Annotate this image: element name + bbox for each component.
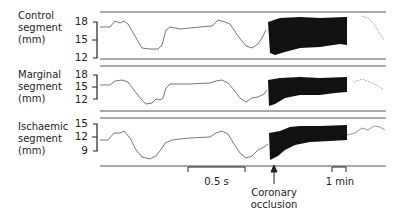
scale-bars: [188, 167, 346, 172]
control-label-line3: (mm): [18, 34, 62, 46]
marginal-label-line1: Marginal: [18, 69, 62, 81]
ischaemic-after: [347, 126, 385, 135]
marginal-ytick-mid: 15: [66, 81, 88, 92]
control-label-line1: Control: [18, 10, 62, 22]
ischaemic-band: [269, 125, 347, 160]
ischaemic-label-line3: (mm): [18, 145, 68, 157]
marginal-ytick-top: 18: [66, 69, 88, 80]
marginal-label-line2: segment: [18, 81, 62, 93]
control-label: Control segment (mm): [18, 10, 62, 46]
ischaemic-ytick-top: 15: [66, 118, 88, 129]
ischaemic-label: Ischaemic segment (mm): [18, 121, 68, 157]
occlusion-annotation: Coronary occlusion: [244, 187, 304, 211]
occlusion-line2: occlusion: [244, 199, 304, 211]
marginal-band: [268, 77, 347, 106]
occlusion-arrow: [271, 165, 277, 184]
marginal-ytick-bottom: 12: [66, 94, 88, 105]
control-after: [362, 16, 384, 40]
marginal-trace: [100, 80, 267, 104]
control-ytick-top: 18: [66, 16, 88, 27]
control-ytick-mid: 15: [66, 34, 88, 45]
ischaemic-ytick-mid: 12: [66, 131, 88, 142]
time-scale-label: 0.5 s: [188, 176, 245, 188]
control-band: [268, 17, 347, 55]
control-ytick-bottom: 12: [66, 52, 88, 63]
marginal-after: [354, 79, 384, 90]
ischaemic-label-line1: Ischaemic: [18, 121, 68, 133]
marginal-label-line3: (mm): [18, 93, 62, 105]
ischaemic-trace: [100, 131, 268, 159]
y-axis-brackets: [92, 22, 97, 151]
ischaemic-ytick-bottom: 9: [66, 145, 88, 156]
ischaemic-label-line2: segment: [18, 133, 68, 145]
control-label-line2: segment: [18, 22, 62, 34]
marginal-label: Marginal segment (mm): [18, 69, 62, 105]
minute-scale-label: 1 min: [320, 176, 360, 188]
occlusion-line1: Coronary: [244, 187, 304, 199]
control-trace: [100, 20, 266, 49]
